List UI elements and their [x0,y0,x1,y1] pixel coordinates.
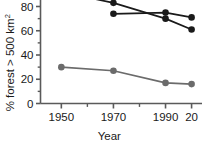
data-point [110,10,117,17]
x-tick-label-1990: 1990 [153,111,179,123]
y-axis-title: % forest > 500 km2 [3,14,16,111]
data-point [110,67,117,74]
series-3 [58,64,195,88]
line-chart: 02040608019501970199020Year% forest > 50… [0,0,202,154]
data-point [162,15,169,22]
data-point [188,81,195,88]
series-1 [58,0,195,33]
chart-canvas: 02040608019501970199020Year% forest > 50… [0,0,202,154]
x-tick-label-1970: 1970 [101,111,127,123]
y-tick-label-20: 20 [21,73,34,85]
data-point [162,9,169,16]
y-tick-label-40: 40 [21,49,34,61]
x-tick-label-20: 20 [185,111,198,123]
y-tick-label-0: 0 [27,98,33,110]
y-tick-label-60: 60 [21,25,34,37]
x-tick-label-1950: 1950 [49,111,75,123]
data-point [188,26,195,33]
data-point [110,0,117,6]
data-point [188,14,195,21]
x-axis-title: Year [98,130,121,142]
data-point [58,64,65,71]
y-tick-label-80: 80 [21,1,34,13]
series-line-3 [61,67,191,84]
data-point [162,80,169,87]
series-line-1 [61,0,191,30]
